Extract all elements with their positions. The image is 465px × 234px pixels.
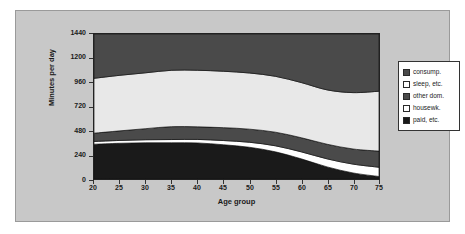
y-tick-label-240: 240 xyxy=(46,151,86,158)
x-tick-label-35: 35 xyxy=(161,184,181,191)
x-tick-label-50: 50 xyxy=(240,184,260,191)
chart-legend: consump. sleep, etc. other dom. housewk.… xyxy=(398,61,460,131)
y-tick-label-480: 480 xyxy=(46,127,86,134)
x-axis-title: Age group xyxy=(93,197,380,206)
chart-plot-container: Minutes per day 1440 1200 960 720 480 24… xyxy=(15,10,450,222)
x-tick-label-40: 40 xyxy=(187,184,207,191)
y-tick-label-1440: 1440 xyxy=(46,29,86,36)
legend-swatch-other-dom xyxy=(403,93,410,100)
x-tick-label-55: 55 xyxy=(266,184,286,191)
legend-item-housewk[interactable]: housewk. xyxy=(403,102,456,114)
y-tick-label-720: 720 xyxy=(46,102,86,109)
legend-label-sleep: sleep, etc. xyxy=(413,81,443,88)
legend-label-consump: consump. xyxy=(413,69,441,76)
legend-label-paid: paid, etc. xyxy=(413,117,439,124)
legend-swatch-paid xyxy=(403,117,410,124)
y-tick-label-960: 960 xyxy=(46,78,86,85)
y-tick-label-1200: 1200 xyxy=(46,53,86,60)
legend-item-paid[interactable]: paid, etc. xyxy=(403,114,456,126)
chart-figure: Minutes per day 1440 1200 960 720 480 24… xyxy=(0,0,465,234)
x-tick-label-75: 75 xyxy=(369,184,389,191)
legend-swatch-sleep xyxy=(403,81,410,88)
y-tick-label-0: 0 xyxy=(46,176,86,183)
x-tick-label-25: 25 xyxy=(109,184,129,191)
stacked-area-svg xyxy=(94,34,379,179)
legend-label-other-dom: other dom. xyxy=(413,93,444,100)
x-tick-label-65: 65 xyxy=(318,184,338,191)
x-tick-label-30: 30 xyxy=(135,184,155,191)
x-tick-label-20: 20 xyxy=(83,184,103,191)
legend-swatch-consump xyxy=(403,69,410,76)
x-tick-label-45: 45 xyxy=(213,184,233,191)
legend-label-housewk: housewk. xyxy=(413,105,440,112)
plot-area xyxy=(93,33,380,180)
legend-item-other-dom[interactable]: other dom. xyxy=(403,90,456,102)
x-tick-label-70: 70 xyxy=(344,184,364,191)
legend-swatch-housewk xyxy=(403,105,410,112)
legend-item-sleep[interactable]: sleep, etc. xyxy=(403,78,456,90)
x-tick-label-60: 60 xyxy=(292,184,312,191)
legend-item-consump[interactable]: consump. xyxy=(403,66,456,78)
